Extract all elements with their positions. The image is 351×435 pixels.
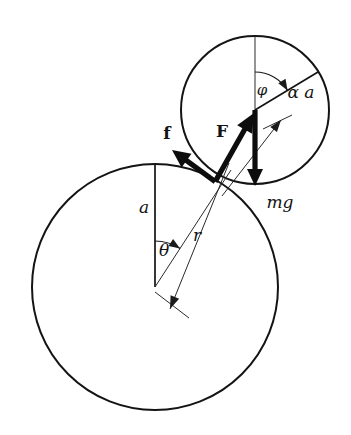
angle-arrowhead-theta [169,239,181,249]
figure-canvas: a θ r φ α a f F mg [0,0,351,435]
label-friction-force: f [163,123,172,143]
label-alpha-a: α a [287,82,314,102]
physics-diagram: a θ r φ α a f F mg [0,0,351,435]
label-normal-force: F [216,121,228,141]
dimension-arrowhead-alpha-a [270,120,281,132]
label-angle-phi: φ [257,81,268,99]
label-angle-theta: θ [159,240,169,260]
label-weight: mg [266,192,293,212]
label-radius-a: a [139,197,149,217]
label-radius-r: r [193,225,202,245]
